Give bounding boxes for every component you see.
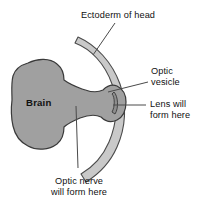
label-ectoderm-of-head: Ectoderm of head: [68, 10, 168, 21]
label-brain: Brain: [26, 97, 52, 108]
label-lens-line1: Lens will: [150, 99, 186, 110]
label-optic-vesicle-line2: vesicle: [151, 77, 180, 88]
leader-line-ectoderm: [93, 23, 115, 55]
label-optic-nerve-line1: Optic nerve: [28, 176, 130, 187]
diagram-canvas: Brain Ectoderm of head Optic vesicle Len…: [0, 0, 214, 212]
label-optic-nerve-line2: will form here: [28, 187, 130, 198]
label-lens-line2: form here: [150, 110, 190, 121]
label-optic-vesicle-line1: Optic: [151, 66, 173, 77]
